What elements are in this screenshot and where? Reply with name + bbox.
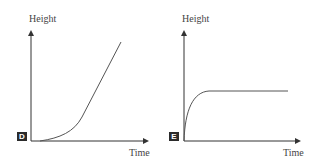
height-curve (40, 42, 121, 141)
chart-panel-d: Height Time D (0, 0, 158, 168)
chart-e-plot (153, 0, 317, 168)
x-axis-label: Time (283, 147, 304, 158)
chart-panel-e: Height Time E (153, 0, 311, 168)
panel-badge-d: D (17, 132, 27, 141)
height-curve (184, 91, 288, 141)
chart-d-plot (0, 0, 158, 168)
y-axis-label: Height (29, 13, 56, 24)
x-axis-label: Time (129, 147, 150, 158)
y-axis-label: Height (182, 13, 209, 24)
panel-badge-e: E (169, 132, 179, 141)
